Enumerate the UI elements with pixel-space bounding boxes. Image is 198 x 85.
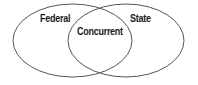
concurrent-label: Concurrent [77,27,123,37]
venn-diagram [0,0,198,85]
state-label: State [130,14,151,24]
federal-ellipse [13,4,132,77]
federal-label: Federal [40,14,70,24]
state-ellipse [68,4,184,77]
